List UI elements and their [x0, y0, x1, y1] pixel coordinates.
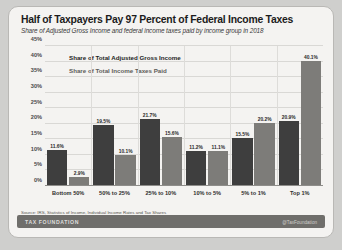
bar: 11.6% [47, 150, 67, 186]
bar: 15.6% [162, 137, 182, 186]
bar-value-label: 11.2% [189, 145, 203, 150]
bar-value-label: 40.1% [304, 55, 318, 60]
x-axis-category-label: 25% to 10% [138, 190, 184, 196]
bar-group: 15.5%20.2%5% to 1% [230, 46, 276, 186]
bar-value-label: 19.5% [96, 119, 110, 124]
y-axis-tick-label: 25% [31, 99, 42, 105]
y-axis-tick-label: 35% [31, 67, 42, 73]
bar-group: 11.2%11.1%10% to 5% [184, 46, 230, 186]
group-separator [184, 46, 185, 186]
y-axis-tick-label: 20% [31, 114, 42, 120]
bar-group: 20.9%40.1%Top 1% [277, 46, 323, 186]
bar: 20.2% [254, 123, 274, 186]
bar: 21.7% [140, 119, 160, 187]
bar-value-label: 15.6% [165, 131, 179, 136]
group-separator [277, 46, 278, 186]
group-separator [230, 46, 231, 186]
bar: 11.1% [208, 151, 228, 186]
bar: 15.5% [232, 138, 252, 186]
bar-value-label: 20.9% [282, 115, 296, 120]
chart-title: Half of Taxpayers Pay 97 Percent of Fede… [21, 14, 293, 25]
bar: 19.5% [93, 125, 113, 186]
bar-value-label: 10.1% [119, 149, 133, 154]
x-axis-category-label: Bottom 50% [45, 190, 91, 196]
plot-area: 0%5%10%15%20%25%30%35%40%45% 11.6%2.9%Bo… [45, 46, 323, 186]
infographic-card: Half of Taxpayers Pay 97 Percent of Fede… [8, 6, 334, 238]
bar-value-label: 11.6% [50, 144, 64, 149]
y-axis-tick-label: 0% [34, 177, 42, 183]
group-separator [91, 46, 92, 186]
bar-group: 21.7%15.6%25% to 10% [138, 46, 184, 186]
y-axis-tick-label: 15% [31, 130, 42, 136]
social-handle: @TaxFoundation [282, 219, 317, 224]
x-axis-category-label: 10% to 5% [184, 190, 230, 196]
bar-value-label: 20.2% [258, 117, 272, 122]
brand-label: TAX FOUNDATION [25, 219, 79, 225]
x-axis-category-label: Top 1% [277, 190, 323, 196]
bar: 40.1% [301, 61, 321, 186]
footer-bar: TAX FOUNDATION @TaxFoundation [17, 215, 325, 228]
bar-value-label: 11.1% [211, 145, 225, 150]
bar-group: 11.6%2.9%Bottom 50% [45, 46, 91, 186]
bar-group: 19.5%10.1%50% to 25% [91, 46, 137, 186]
chart-subtitle: Share of Adjusted Gross Income and feder… [21, 27, 264, 34]
bar-value-label: 21.7% [143, 113, 157, 118]
bar: 11.2% [186, 151, 206, 186]
y-axis-tick-label: 30% [31, 83, 42, 89]
y-axis-tick-label: 40% [31, 52, 42, 58]
bar-value-label: 2.9% [74, 171, 85, 176]
x-axis-category-label: 5% to 1% [230, 190, 276, 196]
x-axis-category-label: 50% to 25% [91, 190, 137, 196]
y-axis-tick-label: 45% [31, 36, 42, 42]
bar: 20.9% [279, 121, 299, 186]
y-axis-tick-label: 5% [34, 161, 42, 167]
bar: 10.1% [115, 155, 135, 186]
y-axis-tick-label: 10% [31, 146, 42, 152]
group-separator [138, 46, 139, 186]
x-axis-line [45, 185, 323, 186]
bar-value-label: 15.5% [235, 132, 249, 137]
